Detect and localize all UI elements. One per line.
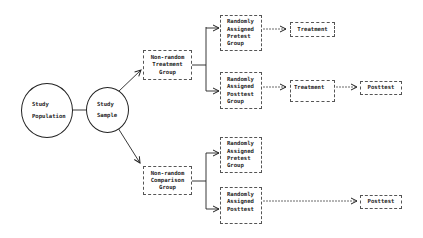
- comparison-posttest-group-node: Randomly Assigned Posttest: [220, 187, 262, 224]
- node-label: Assigned: [227, 26, 254, 33]
- node-label: Posttest: [368, 84, 395, 91]
- node-label: Treatment: [294, 84, 324, 91]
- node-label: Comparison: [151, 177, 185, 184]
- node-label: Group: [227, 98, 244, 105]
- comparison-pretest-group-node: Randomly Assigned Pretest Group: [220, 137, 262, 173]
- node-label: Posttest: [227, 206, 254, 213]
- node-label: Population: [32, 113, 66, 120]
- treatment-posttest-group-node: Randomly Assigned Posttest Group: [220, 72, 262, 109]
- node-label: Randomly: [227, 191, 254, 198]
- study-sample-node: Study Sample: [86, 87, 129, 133]
- node-label: Randomly: [227, 140, 254, 147]
- node-label: Assigned: [227, 148, 254, 155]
- posttest-node-2: Posttest: [360, 195, 402, 209]
- node-label: Posttest: [227, 91, 254, 98]
- node-label: Randomly: [227, 76, 254, 83]
- node-label: Treatment: [297, 26, 327, 33]
- treatment-node-1: Treatment: [290, 22, 335, 37]
- posttest-node-1: Posttest: [360, 81, 402, 95]
- node-label: Group: [159, 69, 176, 76]
- node-label: Posttest: [368, 198, 395, 205]
- nonrandom-comparison-group-node: Non-random Comparison Group: [143, 166, 192, 195]
- treatment-node-2: Treatment: [290, 80, 335, 102]
- node-label: Treatment: [152, 61, 182, 68]
- edge-sample-treatment: [118, 70, 141, 92]
- node-label: Assigned: [227, 198, 254, 205]
- study-population-node: Study Population: [21, 83, 73, 138]
- node-label: Study: [32, 101, 49, 108]
- node-label: Randomly: [227, 18, 254, 25]
- node-label: Sample: [97, 112, 117, 119]
- node-label: Group: [159, 184, 176, 191]
- node-label: Group: [227, 40, 244, 47]
- node-label: Non-random: [151, 54, 185, 61]
- node-label: Assigned: [227, 83, 254, 90]
- nonrandom-treatment-group-node: Non-random Treatment Group: [143, 50, 192, 80]
- treatment-pretest-group-node: Randomly Assigned Pretest Group: [220, 15, 262, 51]
- node-label: Non-random: [151, 170, 185, 177]
- node-label: Pretest: [227, 155, 251, 162]
- node-label: Group: [227, 162, 244, 169]
- edge-sample-comparison: [118, 128, 140, 163]
- node-label: Study: [97, 101, 114, 108]
- node-label: Pretest: [227, 33, 251, 40]
